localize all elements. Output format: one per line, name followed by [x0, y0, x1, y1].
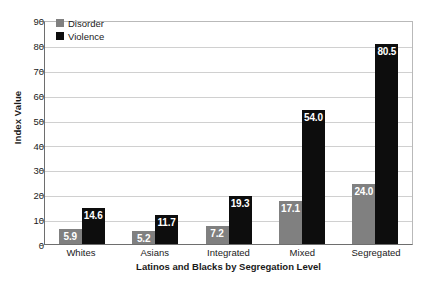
- bar-group-mixed: 17.1 54.0: [265, 22, 338, 244]
- x-axis-title: Latinos and Blacks by Segregation Level: [44, 261, 413, 272]
- bar-group-integrated: 7.2 19.3: [192, 22, 265, 244]
- bar-value-label: 24.0: [354, 186, 373, 197]
- bar-chart: Index Value 90 80 70 60 50 40 30 20 10 0…: [0, 0, 425, 284]
- legend-label: Disorder: [68, 18, 104, 29]
- bar-value-label: 19.3: [231, 198, 250, 209]
- bar-disorder[interactable]: 7.2: [206, 226, 229, 244]
- bar-value-label: 7.2: [210, 228, 223, 239]
- x-tick-label: Mixed: [265, 247, 339, 258]
- bar-violence[interactable]: 54.0: [302, 110, 325, 244]
- legend: Disorder Violence: [56, 17, 104, 43]
- legend-swatch-icon: [56, 19, 64, 27]
- x-tick-label: Asians: [118, 247, 192, 258]
- bar-value-label: 5.9: [64, 231, 77, 242]
- legend-label: Violence: [68, 31, 104, 42]
- x-tick-label: Whites: [44, 247, 118, 258]
- plot-area: 5.9 14.6 5.2 11.7 7.2 19.3: [44, 21, 413, 245]
- bar-disorder[interactable]: 17.1: [279, 201, 302, 244]
- bar-value-label: 17.1: [281, 203, 300, 214]
- x-tick-label: Segregated: [339, 247, 413, 258]
- bar-group-segregated: 24.0 80.5: [339, 22, 412, 244]
- bar-value-label: 80.5: [377, 46, 396, 57]
- x-tick-label: Integrated: [192, 247, 266, 258]
- bar-disorder[interactable]: 5.2: [132, 231, 155, 244]
- legend-item-violence[interactable]: Violence: [56, 30, 104, 42]
- legend-item-disorder[interactable]: Disorder: [56, 17, 104, 29]
- bar-violence[interactable]: 14.6: [82, 208, 105, 244]
- x-axis-labels: Whites Asians Integrated Mixed Segregate…: [44, 247, 413, 258]
- bar-group-whites: 5.9 14.6: [45, 22, 118, 244]
- bar-value-label: 14.6: [84, 210, 103, 221]
- y-tick-mark: [39, 245, 44, 246]
- bar-disorder[interactable]: 24.0: [352, 184, 375, 244]
- legend-swatch-icon: [56, 32, 64, 40]
- bar-violence[interactable]: 80.5: [375, 44, 398, 244]
- bar-value-label: 11.7: [158, 217, 176, 228]
- bar-value-label: 54.0: [304, 112, 323, 123]
- bar-violence[interactable]: 11.7: [155, 215, 178, 244]
- bar-groups: 5.9 14.6 5.2 11.7 7.2 19.3: [45, 22, 412, 244]
- bar-disorder[interactable]: 5.9: [59, 229, 82, 244]
- bar-group-asians: 5.2 11.7: [118, 22, 191, 244]
- bar-value-label: 5.2: [137, 233, 150, 244]
- bar-violence[interactable]: 19.3: [229, 196, 252, 244]
